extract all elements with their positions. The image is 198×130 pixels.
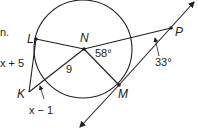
point-L: [34, 37, 38, 41]
label-x-minus-1: x − 1: [29, 104, 53, 116]
point-N: [82, 47, 86, 51]
label-LK: x + 5: [0, 57, 24, 69]
point-P: [169, 26, 173, 30]
tangent-ray-down: [80, 85, 119, 127]
label-angle-N: 58°: [95, 47, 112, 59]
label-L: L: [27, 32, 34, 46]
label-N: N: [80, 31, 89, 45]
segment-LN: [36, 39, 84, 49]
label-K: K: [17, 87, 26, 101]
segment-NP: [84, 28, 171, 49]
segment-NK: [29, 49, 84, 92]
label-P: P: [175, 25, 183, 39]
segment-LK: [29, 39, 36, 92]
segment-pointer: [40, 86, 44, 99]
label-angle-P: 33°: [155, 56, 172, 68]
label-NK: 9: [66, 63, 72, 75]
geometry-diagram: n. L N P K M x + 5 x − 1 9 58° 33°: [0, 0, 198, 130]
label-M: M: [118, 87, 128, 101]
stray-text: n.: [0, 26, 9, 38]
